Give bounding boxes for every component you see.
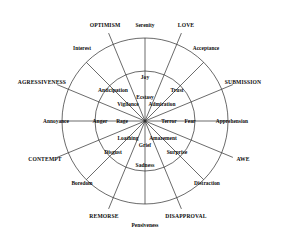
plutchik-wheel-figure: Ecstasy Admiration Terror Amazement Grie…: [0, 0, 291, 240]
spoke-divider: [145, 121, 204, 180]
wheel-diagram-canvas: [0, 0, 291, 240]
spoke-divider: [86, 121, 145, 180]
spoke-divider: [145, 62, 204, 121]
spoke-divider: [86, 62, 145, 121]
